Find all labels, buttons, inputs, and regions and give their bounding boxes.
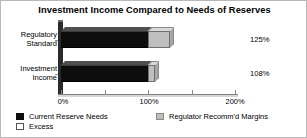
chart-legend: Current Reserve Needs Excess Regulator R… xyxy=(1,110,307,138)
category-label-regulatory-standard: Regulatory Standard xyxy=(21,31,57,48)
x-axis-tick-200 xyxy=(235,90,236,95)
legend-swatch-black-icon xyxy=(16,113,24,120)
x-axis-tick-50 xyxy=(105,90,106,95)
bar-segment-regulator-margins xyxy=(148,65,155,82)
bar-segment-regulator-margins xyxy=(148,31,170,48)
legend-label-excess: Excess xyxy=(29,122,53,131)
bar-regulatory-standard xyxy=(61,31,181,48)
bar-segment-current-reserve-needs xyxy=(61,31,148,48)
bar-investment-income xyxy=(61,65,171,82)
category-label-investment-income: Investment Income xyxy=(20,65,57,82)
bar-segment-current-reserve-needs xyxy=(61,65,148,82)
legend-entry-current-reserve-needs[interactable]: Current Reserve Needs xyxy=(16,112,108,121)
x-axis-tick-100 xyxy=(148,90,149,95)
chart-container: Investment Income Compared to Needs of R… xyxy=(0,0,307,138)
x-axis-label-0: 0% xyxy=(58,97,69,106)
category-label-line2: Income xyxy=(32,73,57,82)
chart-title: Investment Income Compared to Needs of R… xyxy=(1,5,307,15)
x-axis-label-100: 100% xyxy=(140,97,159,106)
legend-label-current-reserve-needs: Current Reserve Needs xyxy=(29,112,108,121)
category-tick-investment-income xyxy=(55,74,58,75)
legend-swatch-gray-icon xyxy=(156,113,164,120)
legend-swatch-white-icon xyxy=(16,123,24,130)
category-label-line2: Standard xyxy=(27,39,57,48)
x-axis-tick-0 xyxy=(61,90,62,95)
data-label-investment-income: 108% xyxy=(250,69,269,78)
legend-entry-excess[interactable]: Excess xyxy=(16,122,53,131)
data-label-regulatory-standard: 125% xyxy=(250,35,269,44)
x-axis-label-200: 200% xyxy=(226,97,245,106)
bar-segment-margin-side-face xyxy=(170,27,174,48)
bar-segment-margin-side-face xyxy=(155,61,159,82)
legend-entry-regulator-margins[interactable]: Regulator Recomm'd Margins xyxy=(156,112,268,121)
legend-label-regulator-margins: Regulator Recomm'd Margins xyxy=(169,112,268,121)
x-axis-tick-150 xyxy=(192,90,193,95)
category-tick-regulatory-standard xyxy=(55,40,58,41)
